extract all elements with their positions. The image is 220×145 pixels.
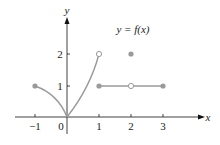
curve-right [67,54,99,117]
x-tick-label: 1 [96,120,102,132]
y-axis-label: y [64,4,70,16]
function-graph: −1 0 1 2 3 1 2 x y y = f(x) [0,0,220,145]
y-tick-label: 1 [57,80,63,92]
y-tick-label: 2 [57,48,63,60]
x-tick-label: −1 [29,120,41,132]
open-point [128,83,133,88]
x-tick-label: 0 [58,120,64,132]
x-ticks [35,114,163,117]
x-tick-label: 2 [128,120,134,132]
closed-point [96,83,101,88]
closed-point [128,51,133,56]
y-ticks [67,54,70,86]
open-point [96,51,101,56]
closed-point [32,83,37,88]
x-axis-arrow-icon [198,115,205,120]
closed-point [160,83,165,88]
function-label: y = f(x) [115,23,149,36]
y-axis-arrow-icon [65,17,70,24]
x-tick-label: 3 [160,120,166,132]
x-axis-label: x [205,111,211,123]
